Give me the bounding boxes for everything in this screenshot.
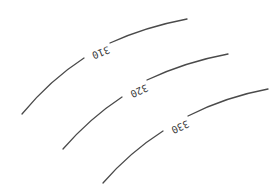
contour-line-320-right <box>147 54 228 80</box>
contour-line-330-right <box>188 89 268 116</box>
contour-label-330: 330 <box>170 118 191 136</box>
contour-label-320: 320 <box>129 82 150 100</box>
contour-320: 320 <box>63 54 228 149</box>
contour-310: 310 <box>22 19 187 114</box>
contour-line-330-left <box>103 131 163 183</box>
contour-line-310-left <box>22 58 84 114</box>
contour-map-svg: 310 320 330 <box>0 0 279 195</box>
contour-line-310-right <box>110 19 187 43</box>
contour-label-310: 310 <box>91 44 112 61</box>
contour-line-320-left <box>63 97 122 149</box>
contour-330: 330 <box>103 89 268 183</box>
contour-map: 310 320 330 <box>0 0 279 195</box>
